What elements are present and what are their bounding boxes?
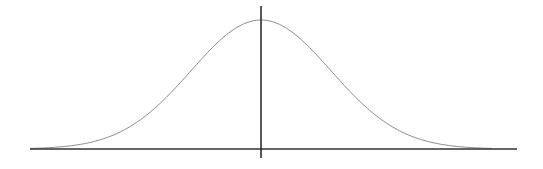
- normal-distribution-chart: [0, 0, 543, 169]
